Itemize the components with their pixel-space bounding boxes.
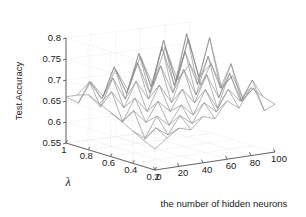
wall-back-gridline-z [66,22,190,38]
plot-canvas: 0.550.60.650.70.750.810.80.60.40.2020406… [0,0,306,217]
y-tick-label: 0.8 [80,150,93,161]
x-tick-label: 40 [202,164,213,175]
mesh-line-col [99,104,110,113]
x-axis-title: the number of hidden neurons [161,198,288,209]
x-tick-label: 60 [226,160,237,171]
mesh-line-col [125,81,136,99]
mesh-line-row [182,89,194,103]
wall-back-gridline-z [66,106,190,122]
mesh-line-row [215,101,227,119]
mesh-line-row [179,128,191,130]
floor-gridline-x [116,137,203,163]
mesh-line-col [164,40,175,86]
mesh-line-col [222,76,233,89]
mesh-line-row [219,64,231,98]
y-axis-title: λ [64,175,70,189]
mesh-line-row [155,138,167,149]
z-tick-label: 0.75 [43,53,62,64]
mesh-line-col [136,81,147,111]
mesh-line-row [66,97,78,103]
mesh-line-row [204,103,216,112]
mesh-line-row [180,116,192,124]
mesh-line-col [88,95,99,104]
wall-back-gridline-z [66,43,190,59]
mesh-line-col [165,47,176,82]
mesh-line-col [124,98,135,108]
mesh-line-row [134,111,146,123]
mesh-line-col [231,64,242,102]
mesh-line-row [136,81,148,99]
mesh-line-col [78,82,89,103]
mesh-line-row [263,97,275,104]
x-tick-label: 100 [271,153,287,164]
y-tick-label: 0.4 [124,164,137,175]
grid-lines [66,22,275,170]
mesh-line-col [185,52,196,96]
mesh-line-col [66,95,77,97]
floor-gridline-x [165,130,251,155]
z-axis-title: Test Accuracy [13,61,24,120]
z-tick-label: 0.55 [43,137,62,148]
mesh-line-col [113,78,124,108]
z-tick-label: 0.6 [48,116,61,127]
mesh-line-col [168,128,179,135]
mesh-line-col [204,103,215,119]
y-tick-label: 1 [61,144,66,155]
mesh-line-col [147,101,158,111]
mesh-line-col [103,67,114,96]
mesh-line-col [184,69,195,102]
mesh-line-col [178,39,189,80]
mesh-line-col [122,122,133,131]
mesh-line-col [91,82,102,99]
mesh-line-col [145,128,156,139]
mesh-line-col [205,90,216,112]
surface-plot-figure: 0.550.60.650.70.750.810.80.60.40.2020406… [0,0,306,217]
x-tick-label: 20 [178,167,189,178]
mesh-line-col [240,88,251,102]
mesh-line-col [254,88,265,111]
mesh-line-row [161,66,173,93]
mesh-line-col [193,103,204,115]
x-tick-label: 0 [156,171,161,182]
floor-gridline-y [88,133,211,150]
mesh-line-col [144,141,155,149]
mesh-line-col [264,104,275,111]
x-tick-label: 80 [250,157,261,168]
mesh-line-col [190,64,201,85]
mesh-line-row [184,69,196,95]
floor-gridline-x [140,133,227,159]
mesh-line-row [203,117,215,119]
mesh-line-row [208,56,220,87]
mesh-line-row [135,98,147,111]
mesh-line-col [233,76,244,100]
z-tick-label: 0.7 [48,74,61,85]
floor-gridline-y [111,140,233,157]
mesh-line-row [123,98,135,122]
z-tick-label: 0.8 [48,32,61,43]
mesh-line-col [153,40,164,85]
y-tick-label: 0.6 [102,157,115,168]
z-tick-label: 0.65 [43,95,62,106]
